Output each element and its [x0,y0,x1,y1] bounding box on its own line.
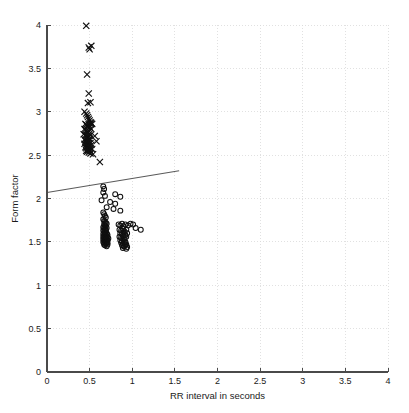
y-axis-tick-label: 1.5 [28,237,41,247]
y-axis-tick-labels: 00.511.522.533.54 [28,20,41,377]
data-point-x-marker [84,71,90,77]
data-point-o-marker [111,206,116,211]
x-axis-tick-label: 0 [44,376,49,386]
decision-boundary-line [47,171,179,193]
y-axis-tick-label: 2.5 [28,151,41,161]
y-axis-title: Form factor [9,174,20,223]
data-point-o-marker [118,208,123,213]
data-point-o-marker [138,227,143,232]
data-point-o-marker [104,205,109,210]
y-axis-tick-label: 1 [36,281,41,291]
x-axis-tick-label: 1 [130,376,135,386]
x-axis-tick-label: 0.5 [83,376,96,386]
data-point-x-marker [86,90,92,96]
series-class-x-markers [81,23,103,165]
gridlines-group [47,25,388,372]
data-point-o-marker [133,226,138,231]
data-point-o-marker [118,194,123,199]
data-point-o-marker [108,200,113,205]
decision-boundary-group [47,171,179,193]
data-point-x-marker [97,159,103,165]
series-class-o-markers [99,184,143,251]
data-point-o-marker [113,192,118,197]
y-axis-tick-label: 3.5 [28,64,41,74]
x-axis-tick-label: 3 [300,376,305,386]
data-point-x-marker [83,23,89,29]
y-axis-tick-label: 2 [36,194,41,204]
x-axis-tick-label: 2 [215,376,220,386]
x-axis-tick-label: 1.5 [169,376,182,386]
scatter-plot: 00.511.522.533.54 00.511.522.533.54 RR i… [0,0,409,413]
x-axis-tick-label: 3.5 [339,376,352,386]
data-point-o-marker [113,201,118,206]
figure-canvas: 00.511.522.533.54 00.511.522.533.54 RR i… [0,0,409,413]
x-axis-tick-label: 2.5 [254,376,267,386]
y-axis-tick-label: 3 [36,107,41,117]
data-point-x-marker [93,138,99,144]
x-axis-title: RR interval in seconds [170,390,265,401]
y-axis-tick-label: 0.5 [28,324,41,334]
y-axis-tick-label: 4 [36,20,41,30]
y-axis-tick-label: 0 [36,367,41,377]
x-axis-tick-labels: 00.511.522.533.54 [44,376,390,386]
x-axis-tick-label: 4 [385,376,390,386]
